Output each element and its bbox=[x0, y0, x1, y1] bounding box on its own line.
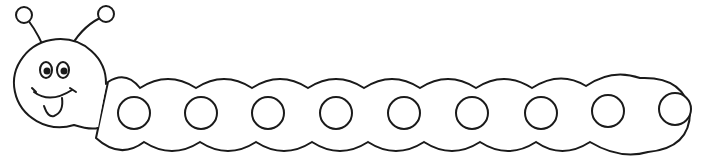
antenna-left-tip bbox=[16, 7, 32, 23]
antenna-right-tip bbox=[98, 6, 114, 22]
segment-circle bbox=[525, 97, 557, 129]
segment-circle bbox=[592, 95, 624, 127]
segment-circle bbox=[118, 97, 150, 129]
pupil-right bbox=[61, 68, 68, 75]
segment-circle bbox=[659, 93, 691, 125]
pupil-left bbox=[44, 68, 51, 75]
segment-circle bbox=[252, 97, 284, 129]
caterpillar-head bbox=[14, 39, 106, 128]
segment-circle bbox=[320, 97, 352, 129]
segment-circle bbox=[185, 97, 217, 129]
segment-circle bbox=[456, 97, 488, 129]
segment-circle bbox=[388, 97, 420, 129]
caterpillar-illustration bbox=[0, 0, 720, 168]
